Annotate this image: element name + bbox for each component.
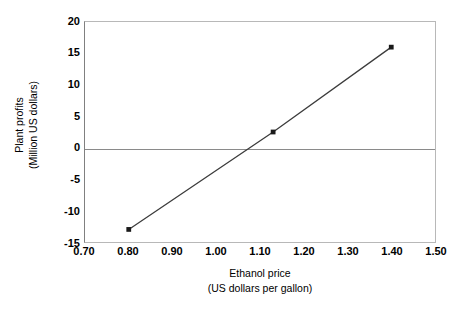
x-tick-label: 0.90 bbox=[161, 245, 182, 257]
data-point-marker bbox=[389, 45, 394, 50]
chart-container: Plant profits (Million US dollars) 20151… bbox=[0, 0, 474, 320]
x-axis-title-line2: (US dollars per gallon) bbox=[84, 281, 436, 296]
data-point-marker bbox=[271, 130, 276, 135]
x-tick-label: 0.70 bbox=[73, 245, 94, 257]
y-tick-label: 5 bbox=[40, 111, 80, 122]
y-tick-label: 0 bbox=[40, 142, 80, 153]
x-tick-label: 1.30 bbox=[337, 245, 358, 257]
x-tick-label: 0.80 bbox=[117, 245, 138, 257]
x-axis-tick-labels: 0.700.800.901.001.101.201.301.401.50 bbox=[84, 245, 436, 261]
y-tick-label: 20 bbox=[40, 16, 80, 27]
data-point-marker bbox=[126, 227, 131, 232]
series-plot bbox=[85, 22, 435, 242]
plot-area bbox=[84, 21, 436, 243]
x-tick-label: 1.00 bbox=[205, 245, 226, 257]
x-tick-label: 1.50 bbox=[425, 245, 446, 257]
y-tick-label: 10 bbox=[40, 79, 80, 90]
x-axis-title: Ethanol price (US dollars per gallon) bbox=[84, 266, 436, 296]
y-tick-label: 15 bbox=[40, 47, 80, 58]
series-line bbox=[129, 47, 392, 229]
x-tick-label: 1.20 bbox=[293, 245, 314, 257]
x-axis-title-line1: Ethanol price bbox=[84, 266, 436, 281]
x-tick-label: 1.10 bbox=[249, 245, 270, 257]
y-tick-label: -5 bbox=[40, 174, 80, 185]
y-axis-title-line2: (Million US dollars) bbox=[26, 81, 40, 169]
y-axis-title-line1: Plant profits bbox=[12, 81, 26, 169]
x-tick-label: 1.40 bbox=[381, 245, 402, 257]
y-tick-label: -10 bbox=[40, 206, 80, 217]
y-axis-tick-labels: 20151050-5-10-15 bbox=[40, 0, 80, 320]
